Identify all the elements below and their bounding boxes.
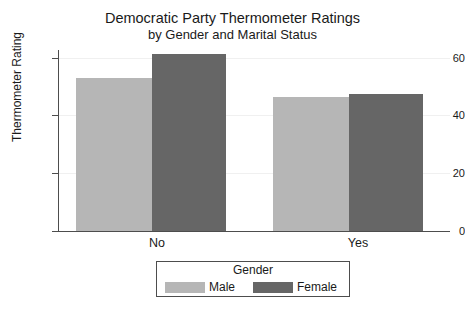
plot-area — [58, 46, 450, 231]
bar-yes-male — [273, 97, 349, 231]
legend-label-female: Female — [297, 280, 337, 294]
bar-no-male — [76, 78, 152, 231]
legend: Gender Male Female — [156, 261, 350, 297]
y-tick-0 — [52, 231, 59, 232]
chart-subtitle: by Gender and Marital Status — [0, 27, 465, 43]
legend-label-male: Male — [209, 280, 235, 294]
legend-entries: Male Female — [157, 280, 349, 295]
bar-yes-female — [349, 94, 423, 231]
x-axis-line — [58, 231, 450, 232]
chart-title: Democratic Party Thermometer Ratings — [0, 10, 465, 26]
legend-swatch-female — [253, 282, 293, 293]
bar-no-female — [152, 54, 226, 231]
x-axis-label-no: No — [117, 236, 197, 250]
legend-title: Gender — [157, 263, 349, 277]
chart-title-block: Democratic Party Thermometer Ratings by … — [0, 10, 465, 43]
legend-swatch-male — [165, 282, 205, 293]
y-axis-label: Thermometer Rating — [10, 22, 28, 152]
chart-container: Democratic Party Thermometer Ratings by … — [0, 0, 465, 312]
x-axis-label-yes: Yes — [318, 236, 398, 250]
